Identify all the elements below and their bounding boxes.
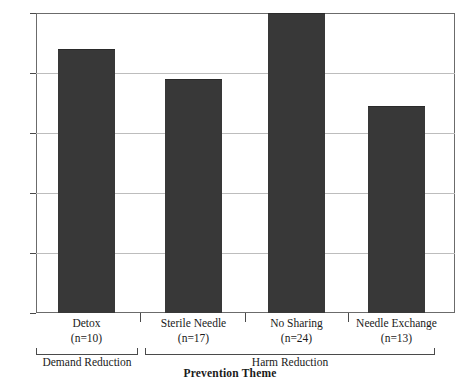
y-tick-mark: [30, 313, 36, 314]
category-name: No Sharing: [240, 316, 353, 331]
category-name: Sterile Needle: [137, 316, 250, 331]
cropped-title-artifact: · · · ·: [0, 0, 460, 5]
category-label: Needle Exchange(n=13): [340, 316, 453, 346]
bar[interactable]: [268, 13, 325, 313]
group-bracket: [145, 348, 435, 355]
category-name: Detox: [30, 316, 143, 331]
y-tick-mark: [30, 193, 36, 194]
bar-chart: 020406080100: [36, 13, 455, 313]
category-label: Detox(n=10): [30, 316, 143, 346]
group-bracket: [36, 348, 138, 355]
y-tick-mark: [30, 73, 36, 74]
category-count: (n=13): [340, 331, 453, 346]
category-label: Sterile Needle(n=17): [137, 316, 250, 346]
cropped-title-text: · · · ·: [0, 0, 460, 4]
y-tick-mark: [30, 13, 36, 14]
category-label: No Sharing(n=24): [240, 316, 353, 346]
category-count: (n=17): [137, 331, 250, 346]
bar[interactable]: [165, 79, 222, 313]
y-tick-mark: [30, 133, 36, 134]
category-name: Needle Exchange: [340, 316, 453, 331]
bar[interactable]: [58, 49, 115, 313]
bar[interactable]: [368, 106, 425, 313]
category-labels: Detox(n=10)Sterile Needle(n=17)No Sharin…: [36, 316, 455, 348]
y-tick-mark: [30, 253, 36, 254]
category-count: (n=24): [240, 331, 353, 346]
x-axis-title: Prevention Theme: [0, 367, 460, 379]
category-count: (n=10): [30, 331, 143, 346]
